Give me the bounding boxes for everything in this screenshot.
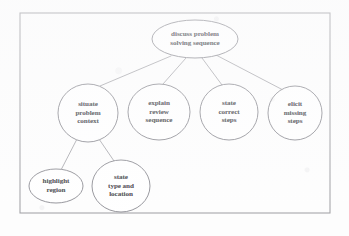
edge-root-situate — [100, 56, 171, 86]
node-statetype[interactable] — [92, 160, 150, 212]
node-elicit[interactable] — [268, 86, 322, 140]
diagram-graphics — [0, 0, 349, 236]
diagram-canvas: discuss problem solving sequencesituate … — [0, 0, 349, 236]
node-situate[interactable] — [58, 84, 118, 142]
node-layer — [29, 20, 322, 212]
edge-root-explain — [163, 58, 186, 84]
node-root[interactable] — [152, 20, 238, 58]
node-highlight[interactable] — [29, 169, 83, 203]
node-correct[interactable] — [200, 84, 258, 140]
edge-root-correct — [202, 58, 222, 85]
edge-situate-highlight — [61, 139, 77, 170]
node-explain[interactable] — [128, 84, 190, 140]
edge-situate-statetype — [99, 139, 114, 161]
